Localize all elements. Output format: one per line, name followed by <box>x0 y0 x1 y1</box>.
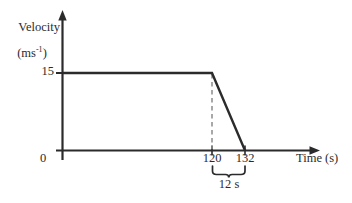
x-axis-title: Time (s) <box>296 152 338 165</box>
y-tick-label-15: 15 <box>38 65 54 78</box>
x-tick-label-132: 132 <box>231 152 259 165</box>
velocity-curve <box>63 73 246 151</box>
y-axis-unit-suffix: ) <box>43 46 47 60</box>
y-axis-title-main: Velocity <box>18 20 60 34</box>
y-axis-unit-prefix: (ms <box>17 46 36 60</box>
interval-brace <box>213 166 246 178</box>
x-tick-label-120: 120 <box>198 152 226 165</box>
y-axis-unit-exponent: -1 <box>36 45 43 54</box>
y-axis-arrowhead <box>58 10 66 21</box>
interval-duration-label: 12 s <box>210 178 248 191</box>
velocity-time-graph-figure: Velocity (ms-1) 15 0 120 132 Time (s) 12… <box>0 0 352 203</box>
y-axis-title-unit: (ms-1) <box>6 47 58 60</box>
x-axis <box>56 146 320 154</box>
origin-label: 0 <box>40 152 46 165</box>
